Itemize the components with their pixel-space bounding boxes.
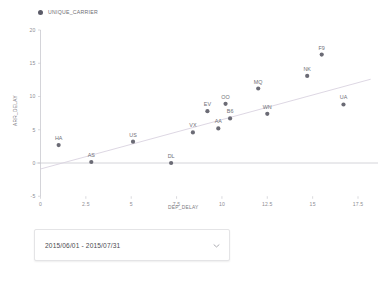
x-axis-tick-label: 5 — [130, 201, 133, 207]
scatter-point-label: MQ — [254, 79, 263, 85]
scatter-point[interactable] — [265, 112, 269, 116]
scatter-point-group[interactable]: US — [129, 132, 137, 144]
scatter-point[interactable] — [57, 143, 61, 147]
scatter-point-group[interactable]: WN — [263, 104, 272, 116]
scatter-point[interactable] — [205, 109, 209, 113]
scatter-point-group[interactable]: MQ — [254, 79, 263, 91]
date-range-filter[interactable]: 2015/06/01 - 2015/07/31 — [34, 229, 230, 261]
chart-plot-area: 20151050-502.557.51012.51517.5HAASUSDLVX… — [0, 0, 392, 215]
scatter-point-group[interactable]: F9 — [319, 45, 325, 57]
scatter-point-label: AS — [88, 152, 96, 158]
date-range-value: 2015/06/01 - 2015/07/31 — [45, 242, 212, 249]
scatter-point[interactable] — [305, 74, 309, 78]
scatter-point[interactable] — [191, 130, 195, 134]
scatter-point[interactable] — [216, 126, 220, 130]
scatter-point[interactable] — [89, 160, 93, 164]
date-range-dropdown[interactable]: 2015/06/01 - 2015/07/31 — [34, 229, 230, 261]
x-axis-tick-label: 15 — [310, 201, 316, 207]
scatter-point-group[interactable]: B6 — [227, 108, 234, 120]
y-axis-tick-label: -5 — [31, 193, 36, 199]
scatter-point-group[interactable]: AA — [215, 118, 223, 130]
scatter-chart-svg: 20151050-502.557.51012.51517.5HAASUSDLVX… — [0, 0, 392, 215]
scatter-point[interactable] — [256, 86, 260, 90]
scatter-point-group[interactable]: EV — [204, 101, 212, 113]
scatter-point-label: AA — [215, 118, 223, 124]
x-axis-tick-label: 17.5 — [353, 201, 364, 207]
scatter-point[interactable] — [169, 161, 173, 165]
scatter-point-label: US — [129, 132, 137, 138]
x-axis-tick-label: 12.5 — [262, 201, 273, 207]
scatter-point-group[interactable]: HA — [55, 135, 63, 147]
scatter-point-label: OO — [221, 94, 229, 100]
y-axis-title: ARR_DELAY — [13, 88, 18, 134]
y-axis-tick-label: 0 — [32, 160, 35, 166]
x-axis-title: DEP_DELAY — [168, 205, 199, 210]
scatter-point-group[interactable]: NK — [303, 66, 311, 78]
scatter-point[interactable] — [223, 102, 227, 106]
scatter-plot-page: UNIQUE_CARRIER 20151050-502.557.51012.51… — [0, 0, 392, 287]
scatter-point[interactable] — [228, 116, 232, 120]
y-axis-tick-label: 5 — [32, 127, 35, 133]
scatter-point-label: DL — [168, 153, 175, 159]
scatter-point-group[interactable]: OO — [221, 94, 229, 106]
scatter-point[interactable] — [341, 102, 345, 106]
scatter-point-label: WN — [263, 104, 272, 110]
scatter-point-group[interactable]: UA — [340, 94, 348, 106]
x-axis-tick-label: 2.5 — [82, 201, 90, 207]
scatter-point-label: NK — [303, 66, 311, 72]
x-axis-tick-label: 0 — [39, 201, 42, 207]
y-axis-tick-label: 10 — [29, 93, 35, 99]
scatter-point[interactable] — [131, 140, 135, 144]
scatter-point-label: HA — [55, 135, 63, 141]
chevron-down-icon[interactable] — [212, 241, 221, 250]
scatter-point-label: F9 — [319, 45, 325, 51]
scatter-point-label: VX — [189, 122, 197, 128]
x-axis-tick-label: 10 — [219, 201, 225, 207]
scatter-point[interactable] — [320, 53, 324, 57]
scatter-point-group[interactable]: AS — [88, 152, 96, 164]
scatter-point-label: B6 — [227, 108, 234, 114]
y-axis-tick-label: 20 — [29, 27, 35, 33]
scatter-point-label: UA — [340, 94, 348, 100]
y-axis-tick-label: 15 — [29, 60, 35, 66]
scatter-point-label: EV — [204, 101, 212, 107]
